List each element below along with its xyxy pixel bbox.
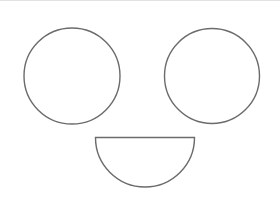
- left-eye-circle: [24, 28, 120, 124]
- drawing-canvas: [0, 0, 280, 208]
- shapes-layer: [0, 0, 280, 208]
- mouth-semicircle: [96, 138, 195, 188]
- right-eye-circle: [165, 29, 260, 124]
- canvas-top-edge: [0, 0, 280, 1]
